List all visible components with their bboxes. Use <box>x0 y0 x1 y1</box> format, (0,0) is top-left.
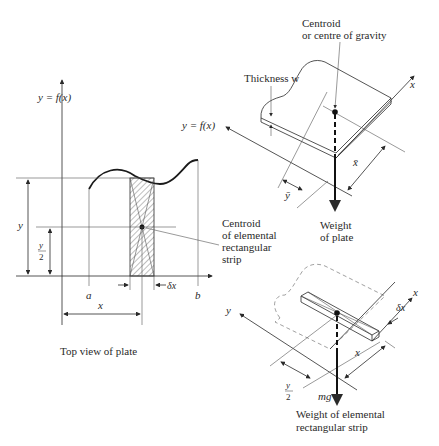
callout-line-1: Centroid <box>222 217 261 229</box>
plate-x-axis-label: x <box>409 78 415 90</box>
strip-x-axis-base <box>330 282 395 349</box>
strip-caption-2: rectangular strip <box>296 421 368 433</box>
plate-y-axis <box>226 127 352 196</box>
label-y-half-num: y <box>38 240 43 250</box>
plate-edge <box>336 98 391 153</box>
plate-y-axis-label: y = f(x) <box>181 119 215 132</box>
xbar-dimension <box>348 146 385 190</box>
strip-y-axis-label: y <box>225 304 231 316</box>
plate-centroid-dot <box>332 109 338 115</box>
guide-line <box>297 181 328 208</box>
strip-isometric-panel: y x δx x y 2 mg Weight of elemental rect… <box>225 264 418 433</box>
strip-centroid-callout: Centroid of elemental rectangular strip <box>146 217 277 265</box>
plate-x-axis <box>336 76 414 158</box>
xbar-label: x̄ <box>352 156 358 168</box>
centroid-label-2: or centre of gravity <box>302 29 387 41</box>
strip-caption-1: Weight of elemental <box>296 408 385 420</box>
weight-label-1: Weight <box>320 219 352 231</box>
strip-y-axis <box>240 314 357 390</box>
top-view-caption: Top view of plate <box>60 345 137 357</box>
label-y-half-den: 2 <box>39 252 44 262</box>
strip-label-dx: δx <box>396 302 406 313</box>
strip-y-half-dimension <box>281 362 310 378</box>
strip-label-x: x <box>354 346 360 358</box>
label-a: a <box>86 289 92 301</box>
guide-line <box>303 342 380 388</box>
y-axis-label: y = f(x) <box>37 91 71 104</box>
callout-line-4: strip <box>222 253 242 265</box>
centroid-leader <box>335 42 340 108</box>
centroid-label-1: Centroid <box>302 17 341 29</box>
strip-x-axis-label: x <box>412 286 418 298</box>
thickness-label: Thickness w <box>244 72 299 84</box>
strip-centroid-dot-3d <box>334 310 340 316</box>
strip-label-y-half-den: 2 <box>286 392 291 402</box>
strip-label-y-half-num: y <box>285 380 290 390</box>
guide-line <box>278 92 327 188</box>
label-b: b <box>195 289 201 301</box>
callout-leader <box>146 228 219 245</box>
ybar-label: ȳ <box>284 189 291 201</box>
plate-isometric-panel: Centroid or centre of gravity Thickness … <box>181 17 415 243</box>
label-x: x <box>97 299 103 311</box>
weight-label-2: of plate <box>320 231 353 243</box>
label-dx: δx <box>167 280 177 291</box>
guide-line <box>270 315 337 366</box>
callout-line-2: of elemental <box>222 229 277 241</box>
label-y: y <box>17 219 23 231</box>
callout-line-3: rectangular <box>222 241 272 253</box>
plate-centroid-diagram: y = f(x) a b y y 2 δx <box>0 0 439 446</box>
strip-x-axis <box>372 298 412 341</box>
mg-label: mg <box>318 390 332 402</box>
guide-line <box>385 341 395 348</box>
